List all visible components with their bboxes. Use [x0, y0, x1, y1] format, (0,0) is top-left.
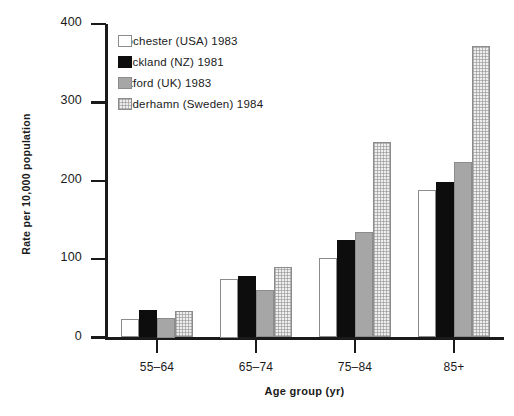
- legend-item: Söderhamn (Sweden) 1984: [118, 93, 263, 114]
- y-tick-label-300: 300: [22, 93, 82, 107]
- x-tick-label-3: 85+: [409, 360, 499, 374]
- bar: [157, 318, 175, 338]
- legend: Rochester (USA) 1983Auckland (NZ) 1981Ox…: [118, 30, 263, 114]
- y-tick-400: [91, 23, 106, 26]
- bar: [121, 319, 139, 337]
- y-tick-200: [91, 180, 106, 183]
- bar: [436, 182, 454, 337]
- y-tick-label-100: 100: [22, 250, 82, 264]
- legend-label: Söderhamn (Sweden) 1984: [118, 98, 263, 110]
- legend-swatch-icon: [118, 98, 132, 110]
- bar: [454, 162, 472, 338]
- x-tick-2: [354, 339, 357, 353]
- x-tick-3: [453, 339, 456, 353]
- legend-item: Oxford (UK) 1983: [118, 72, 263, 93]
- legend-label: Auckland (NZ) 1981: [118, 56, 224, 68]
- x-tick-label-1: 65–74: [211, 360, 301, 374]
- legend-swatch-icon: [118, 56, 132, 68]
- x-tick-label-2: 75–84: [310, 360, 400, 374]
- bar: [355, 232, 373, 338]
- y-tick-0: [91, 336, 106, 339]
- legend-swatch-icon: [118, 35, 132, 47]
- y-tick-label-200: 200: [22, 172, 82, 186]
- bar: [274, 267, 292, 338]
- bar: [472, 46, 490, 338]
- y-tick-label-400: 400: [22, 15, 82, 29]
- x-tick-1: [255, 339, 258, 353]
- bar: [337, 240, 355, 337]
- legend-item: Rochester (USA) 1983: [118, 30, 263, 51]
- bar: [220, 279, 238, 338]
- y-tick-300: [91, 101, 106, 104]
- bar: [238, 276, 256, 337]
- x-tick-0: [156, 339, 159, 353]
- bar: [418, 190, 436, 337]
- legend-swatch-icon: [118, 77, 132, 89]
- bar: [175, 311, 193, 338]
- y-tick-label-0: 0: [22, 329, 82, 343]
- x-tick-label-0: 55–64: [112, 360, 202, 374]
- legend-item: Auckland (NZ) 1981: [118, 51, 263, 72]
- bar: [256, 290, 274, 337]
- bar-chart: Rate per 10,000 population 0100200300400…: [0, 0, 514, 416]
- bar: [139, 310, 157, 337]
- bar: [319, 258, 337, 337]
- x-axis-title: Age group (yr): [105, 385, 504, 397]
- legend-label: Rochester (USA) 1983: [118, 35, 238, 47]
- bar: [373, 142, 391, 337]
- y-tick-100: [91, 258, 106, 261]
